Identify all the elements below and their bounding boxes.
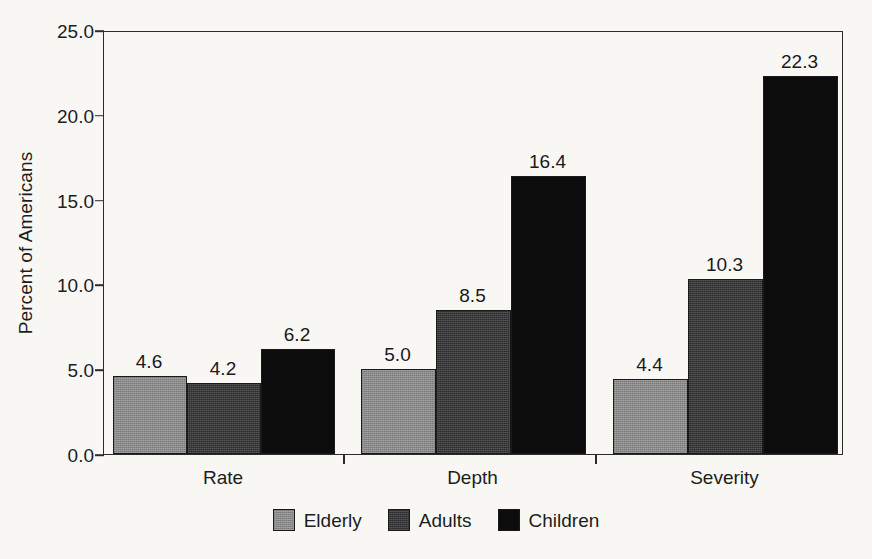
legend-label: Elderly xyxy=(304,511,362,530)
bar-severity-elderly xyxy=(613,379,688,454)
bar-chart-figure: Percent of Americans 0.05.010.015.020.02… xyxy=(0,0,872,559)
y-tick-label: 15.0 xyxy=(26,191,94,210)
bars-container xyxy=(104,32,842,454)
y-tick-label: 10.0 xyxy=(26,276,94,295)
legend-item-children[interactable]: Children xyxy=(498,509,600,531)
y-tick-label: 5.0 xyxy=(26,361,94,380)
y-tick-label: 0.0 xyxy=(26,446,94,465)
bar-value-label: 8.5 xyxy=(435,286,510,305)
bar-value-label: 22.3 xyxy=(762,52,837,71)
bar-value-label: 4.6 xyxy=(112,352,186,371)
bar-severity-children xyxy=(763,76,838,454)
bar-value-label: 16.4 xyxy=(510,152,585,171)
bar-value-label: 5.0 xyxy=(360,345,435,364)
bar-depth-children xyxy=(511,176,586,454)
bar-value-label: 6.2 xyxy=(260,325,334,344)
legend-label: Adults xyxy=(419,511,472,530)
legend-swatch-icon xyxy=(273,509,295,531)
x-group-label-severity: Severity xyxy=(690,468,759,487)
x-tick-mark xyxy=(595,455,597,464)
y-axis-title: Percent of Americans xyxy=(13,31,39,455)
bar-value-label: 4.4 xyxy=(612,355,687,374)
x-tick-mark xyxy=(343,455,345,464)
bar-value-label: 10.3 xyxy=(687,255,762,274)
legend-label: Children xyxy=(529,511,600,530)
bar-depth-elderly xyxy=(361,369,436,454)
bar-rate-elderly xyxy=(113,376,187,454)
y-tick-label: 25.0 xyxy=(26,22,94,41)
y-tick-label: 20.0 xyxy=(26,106,94,125)
plot-area xyxy=(103,31,843,455)
x-group-label-depth: Depth xyxy=(447,468,498,487)
legend-item-adults[interactable]: Adults xyxy=(388,509,472,531)
legend-swatch-icon xyxy=(498,509,520,531)
bar-severity-adults xyxy=(688,279,763,454)
bar-rate-adults xyxy=(187,383,261,454)
bar-rate-children xyxy=(261,349,335,454)
x-group-label-rate: Rate xyxy=(203,468,243,487)
bar-value-label: 4.2 xyxy=(186,359,260,378)
chart-legend: ElderlyAdultsChildren xyxy=(0,505,872,535)
legend-item-elderly[interactable]: Elderly xyxy=(273,509,362,531)
legend-swatch-icon xyxy=(388,509,410,531)
bar-depth-adults xyxy=(436,310,511,454)
